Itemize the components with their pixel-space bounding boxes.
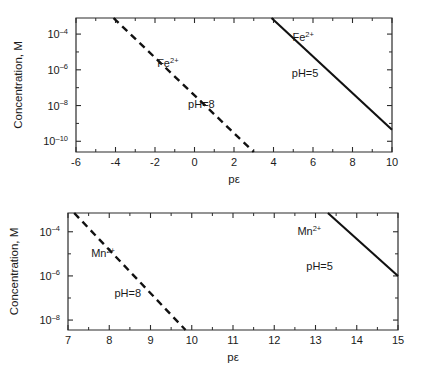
x-tick-label: 7 bbox=[65, 334, 71, 346]
x-axis-title: pε bbox=[228, 173, 240, 185]
x-tick-label: 6 bbox=[310, 156, 316, 168]
chart-top-svg: -6-4-2024681010–410–610–810–10Fe2+pH=8Fe… bbox=[0, 0, 423, 190]
y-tick-label: 10–10 bbox=[43, 134, 68, 148]
curve-annotation: Fe2+ bbox=[292, 30, 314, 44]
x-tick-label: 0 bbox=[191, 156, 197, 168]
x-tick-label: -2 bbox=[150, 156, 160, 168]
data-series-line bbox=[328, 213, 398, 276]
x-axis-title: pε bbox=[227, 351, 239, 363]
curve-annotation: pH=5 bbox=[306, 260, 333, 272]
x-tick-label: -4 bbox=[111, 156, 121, 168]
y-tick-label: 10–8 bbox=[39, 313, 60, 327]
x-tick-label: 13 bbox=[309, 334, 321, 346]
curve-annotation: Fe2+ bbox=[157, 56, 179, 70]
curve-annotation: pH=8 bbox=[115, 287, 142, 299]
figure-container: -6-4-2024681010–410–610–810–10Fe2+pH=8Fe… bbox=[0, 0, 423, 373]
x-tick-label: 9 bbox=[147, 334, 153, 346]
curve-annotation: pH=5 bbox=[292, 67, 319, 79]
y-axis-title: Concentration, M bbox=[8, 228, 20, 316]
chart-panel-top: -6-4-2024681010–410–610–810–10Fe2+pH=8Fe… bbox=[0, 0, 423, 190]
y-tick-label: 10–4 bbox=[39, 224, 60, 238]
y-tick-label: 10–6 bbox=[47, 62, 68, 76]
x-tick-label: 14 bbox=[351, 334, 363, 346]
x-tick-label: 11 bbox=[227, 334, 238, 346]
curve-annotation: pH=8 bbox=[188, 98, 215, 110]
data-series-line bbox=[114, 18, 254, 152]
y-tick-label: 10–8 bbox=[47, 98, 68, 112]
x-tick-label: 4 bbox=[270, 156, 276, 168]
x-tick-label: 2 bbox=[231, 156, 237, 168]
y-tick-label: 10–6 bbox=[39, 268, 60, 282]
chart-panel-bottom: 78910111213141510–410–610–8Mn2+pH=8Mn2+p… bbox=[0, 190, 423, 373]
x-tick-label: -6 bbox=[71, 156, 81, 168]
x-tick-label: 8 bbox=[106, 334, 112, 346]
x-tick-label: 10 bbox=[186, 334, 198, 346]
chart-bottom-svg: 78910111213141510–410–610–8Mn2+pH=8Mn2+p… bbox=[0, 190, 423, 373]
data-series-line bbox=[272, 18, 392, 130]
x-tick-label: 12 bbox=[268, 334, 280, 346]
y-axis-title: Concentration, M bbox=[12, 41, 24, 129]
y-tick-label: 10–4 bbox=[47, 27, 68, 41]
x-tick-label: 15 bbox=[392, 334, 404, 346]
curve-annotation: Mn2+ bbox=[91, 246, 115, 260]
x-tick-label: 10 bbox=[386, 156, 398, 168]
x-tick-label: 8 bbox=[349, 156, 355, 168]
curve-annotation: Mn2+ bbox=[297, 224, 321, 238]
data-series-line bbox=[74, 213, 185, 330]
